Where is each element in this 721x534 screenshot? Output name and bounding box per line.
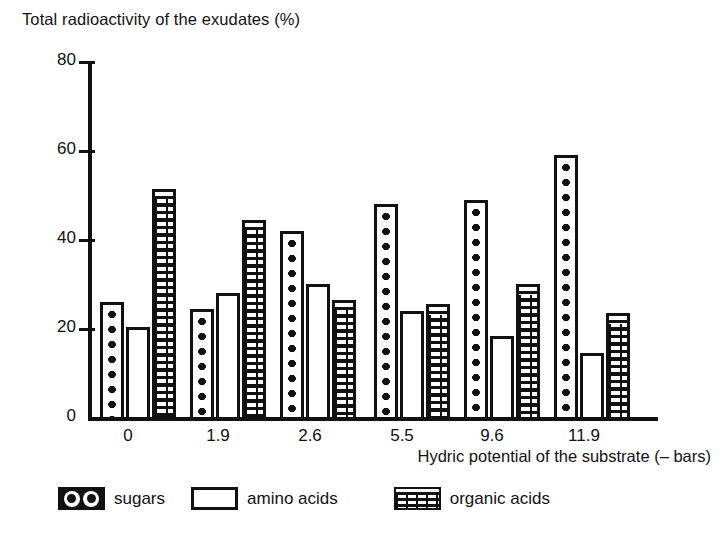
bar-amino-acids-2.6 (306, 284, 330, 420)
y-tick-label-40: 40 (57, 228, 76, 248)
legend-swatch-sugars-icon (58, 487, 105, 510)
chart-legend: sugars amino acids organic acids (58, 487, 550, 510)
legend-item-sugars: sugars (58, 487, 165, 510)
bar-amino-acids-0 (126, 327, 150, 421)
plot-area: 80 60 40 20 0 0 1.9 2.6 5.5 9.6 11.9 (88, 58, 658, 420)
legend-label-sugars: sugars (114, 489, 165, 509)
bar-amino-acids-11.9 (580, 353, 604, 420)
legend-swatch-amino-acids-icon (191, 487, 238, 510)
bar-group (374, 61, 462, 420)
bar-sugars-11.9 (554, 155, 578, 420)
bar-organic-acids-11.9 (606, 313, 630, 420)
y-tick-label-60: 60 (57, 139, 76, 159)
legend-item-organic-acids: organic acids (394, 487, 550, 510)
bar-group (100, 61, 188, 420)
legend-item-amino-acids: amino acids (191, 487, 338, 510)
bar-sugars-5.5 (374, 204, 398, 420)
x-tick-label-2: 2.6 (298, 426, 322, 446)
bar-organic-acids-0 (152, 189, 176, 420)
legend-label-amino-acids: amino acids (247, 489, 338, 509)
bar-group (554, 61, 642, 420)
bar-sugars-1.9 (190, 309, 214, 420)
bar-amino-acids-1.9 (216, 293, 240, 420)
bar-sugars-9.6 (464, 200, 488, 420)
bar-organic-acids-5.5 (426, 304, 450, 420)
bar-sugars-2.6 (280, 231, 304, 420)
x-tick-label-5: 11.9 (568, 426, 600, 446)
bar-chart-figure: Total radioactivity of the exudates (%) … (0, 0, 721, 534)
bar-organic-acids-2.6 (332, 300, 356, 420)
bar-sugars-0 (100, 302, 124, 420)
y-tick-label-0: 0 (67, 406, 76, 426)
bar-group (280, 61, 368, 420)
x-tick-label-3: 5.5 (390, 426, 414, 446)
legend-swatch-organic-acids-icon (394, 487, 441, 510)
x-tick-label-4: 9.6 (480, 426, 504, 446)
legend-label-organic-acids: organic acids (450, 489, 550, 509)
bar-organic-acids-1.9 (242, 220, 266, 420)
bar-organic-acids-9.6 (516, 284, 540, 420)
x-tick-label-0: 0 (123, 426, 132, 446)
bar-group (190, 61, 278, 420)
x-tick-label-1: 1.9 (206, 426, 230, 446)
x-axis-title: Hydric potential of the substrate (– bar… (418, 447, 711, 466)
bar-amino-acids-5.5 (400, 311, 424, 420)
y-tick-label-80: 80 (57, 50, 76, 70)
y-tick-label-20: 20 (57, 317, 76, 337)
bar-group (464, 61, 552, 420)
bar-amino-acids-9.6 (490, 336, 514, 421)
page-title: Total radioactivity of the exudates (%) (22, 10, 300, 29)
